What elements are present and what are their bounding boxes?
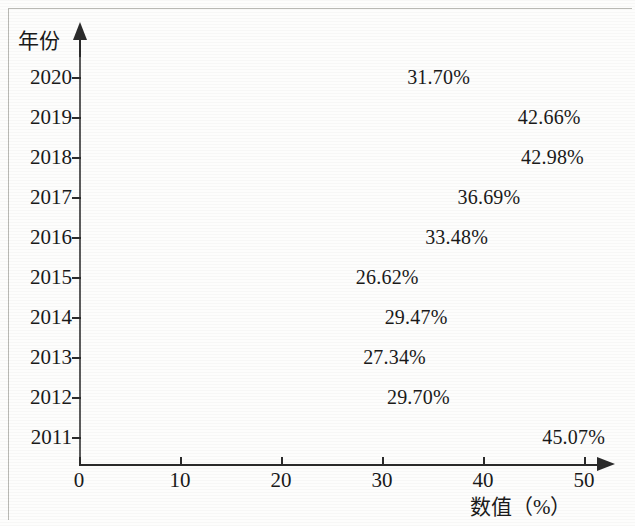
y-axis-label-2013: 2013 (6, 345, 72, 370)
bar-row[interactable] (79, 257, 348, 297)
bar-row[interactable] (79, 57, 399, 97)
y-axis-label-2012: 2012 (6, 385, 72, 410)
bar-value-label-2011: 45.07% (542, 426, 605, 449)
plot-area: 31.70%202042.66%201942.98%201836.69%2017… (0, 0, 635, 526)
bar-row[interactable] (79, 177, 450, 217)
y-axis-title: 年份 (18, 24, 60, 54)
bar-value-label-2014: 29.47% (385, 306, 448, 329)
bar-value-label-2017: 36.69% (458, 186, 521, 209)
bar-row[interactable] (79, 377, 379, 417)
x-axis-label-50: 50 (574, 468, 595, 493)
x-axis-tick-30 (382, 457, 384, 465)
bar-row[interactable] (79, 137, 513, 177)
y-axis-tick-2020 (72, 77, 81, 79)
bar-row[interactable] (79, 97, 510, 137)
y-axis-tick-2012 (72, 397, 81, 399)
bar-row[interactable] (79, 337, 355, 377)
x-axis-tick-10 (180, 457, 182, 465)
y-axis-label-2011: 2011 (6, 425, 72, 450)
bar-row[interactable] (79, 297, 377, 337)
x-axis-label-0: 0 (74, 468, 85, 493)
bars-layer: 31.70%202042.66%201942.98%201836.69%2017… (0, 0, 635, 526)
y-axis-tick-2019 (72, 117, 81, 119)
y-axis-label-2020: 2020 (6, 65, 72, 90)
y-axis-label-2016: 2016 (6, 225, 72, 250)
x-axis-tick-40 (483, 457, 485, 465)
bar-value-label-2020: 31.70% (407, 66, 470, 89)
y-axis-label-2017: 2017 (6, 185, 72, 210)
x-axis-label-10: 10 (170, 468, 191, 493)
y-axis-tick-2014 (72, 317, 81, 319)
bar-value-label-2018: 42.98% (521, 146, 584, 169)
bar-value-label-2019: 42.66% (518, 106, 581, 129)
y-axis-label-2018: 2018 (6, 145, 72, 170)
y-axis-tick-2016 (72, 237, 81, 239)
bar-chart-figure: 31.70%202042.66%201942.98%201836.69%2017… (0, 0, 635, 526)
y-axis-tick-2015 (72, 277, 81, 279)
bar-row[interactable] (79, 417, 534, 457)
x-axis-title: 数值（%） (470, 490, 572, 520)
x-axis-tick-20 (281, 457, 283, 465)
x-axis-label-20: 20 (271, 468, 292, 493)
y-axis-tick-2011 (72, 437, 81, 439)
bar-value-label-2016: 33.48% (425, 226, 488, 249)
bar-value-label-2015: 26.62% (356, 266, 419, 289)
y-axis-tick-2018 (72, 157, 81, 159)
y-axis-tick-2013 (72, 357, 81, 359)
y-axis-label-2014: 2014 (6, 305, 72, 330)
y-axis-label-2019: 2019 (6, 105, 72, 130)
bar-value-label-2013: 27.34% (363, 346, 426, 369)
bar-row[interactable] (79, 217, 417, 257)
y-axis-label-2015: 2015 (6, 265, 72, 290)
y-axis-tick-2017 (72, 197, 81, 199)
x-axis-label-30: 30 (372, 468, 393, 493)
x-axis-tick-0 (79, 457, 81, 465)
bar-value-label-2012: 29.70% (387, 386, 450, 409)
x-axis-tick-50 (584, 457, 586, 465)
